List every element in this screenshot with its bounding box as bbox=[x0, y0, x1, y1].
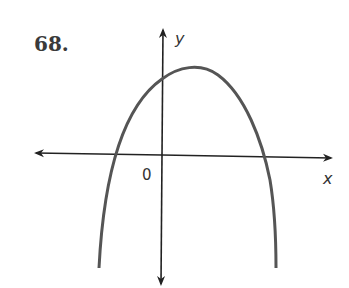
x-axis bbox=[36, 153, 162, 155]
origin-label: 0 bbox=[142, 166, 152, 184]
y-axis bbox=[162, 30, 163, 155]
y-axis-label: y bbox=[174, 29, 185, 48]
parabola-curve bbox=[99, 67, 276, 268]
x-axis-label: x bbox=[322, 169, 333, 188]
x-axis bbox=[162, 155, 331, 158]
y-axis bbox=[161, 155, 162, 284]
graph: y x 0 bbox=[0, 0, 349, 288]
